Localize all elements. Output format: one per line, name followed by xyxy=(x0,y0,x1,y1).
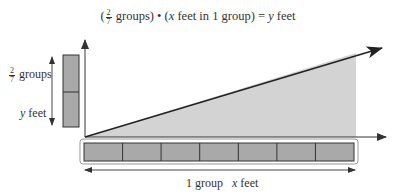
label-y-feet: y feet xyxy=(20,106,46,121)
label-groups: groups xyxy=(19,67,52,81)
eq-bullet: • xyxy=(157,9,161,23)
label-fraction-groups: 27 groups xyxy=(8,67,52,84)
label-feet-bottom: feet xyxy=(240,176,258,190)
label-one-group: 1 group xyxy=(186,176,223,191)
label-var-y: y xyxy=(20,106,25,120)
eq-groups: groups) xyxy=(116,9,154,23)
eq-open-paren: ( xyxy=(100,9,104,23)
label-var-x: x xyxy=(232,176,237,190)
eq-var-y: y xyxy=(268,9,274,23)
diagram-canvas xyxy=(0,0,396,195)
label-fraction: 27 xyxy=(9,67,15,84)
label-feet-left: feet xyxy=(28,106,46,120)
equation: (27 groups) • (x feet in 1 group) = y fe… xyxy=(0,9,396,26)
eq-fraction: 27 xyxy=(106,9,112,26)
eq-middle: feet in 1 group) = xyxy=(177,9,265,23)
horizontal-tape xyxy=(80,139,358,164)
vertical-tape xyxy=(63,55,79,127)
eq-end: feet xyxy=(277,9,296,23)
label-x-feet: x feet xyxy=(232,176,258,191)
eq-var-x: x xyxy=(169,9,175,23)
